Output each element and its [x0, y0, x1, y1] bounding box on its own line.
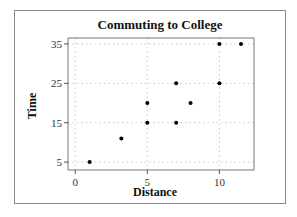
data-point — [119, 136, 123, 140]
scatter-chart: Commuting to College Distance Time 05105… — [0, 0, 297, 217]
data-point — [217, 81, 221, 85]
x-tick-label: 0 — [72, 176, 78, 188]
y-tick-label: 15 — [51, 117, 63, 129]
chart-title: Commuting to College — [98, 17, 223, 32]
plot-area — [68, 38, 254, 170]
data-point — [174, 121, 178, 125]
y-tick-label: 25 — [51, 77, 63, 89]
data-point — [239, 42, 243, 46]
x-tick-label: 5 — [145, 176, 151, 188]
data-point — [174, 81, 178, 85]
x-axis-label: Distance — [133, 185, 178, 199]
data-point — [145, 101, 149, 105]
data-point — [189, 101, 193, 105]
y-tick-label: 5 — [57, 156, 63, 168]
data-point — [217, 42, 221, 46]
data-point — [145, 121, 149, 125]
data-point — [88, 160, 92, 164]
y-tick-label: 35 — [51, 38, 63, 50]
x-tick-label: 10 — [214, 176, 226, 188]
y-axis-label: Time — [25, 92, 39, 119]
